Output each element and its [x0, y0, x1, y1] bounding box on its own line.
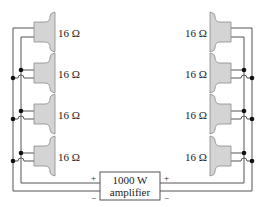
- speaker-label: 16 Ω: [185, 151, 207, 163]
- left-minus-terminal: −: [91, 193, 96, 203]
- speaker-label: 16 Ω: [58, 68, 80, 80]
- speaker-label: 16 Ω: [58, 109, 80, 121]
- speaker-label: 16 Ω: [185, 109, 207, 121]
- speaker-icon: 16 Ω: [185, 94, 231, 134]
- junction-dot: [11, 117, 16, 122]
- speaker-icon: 16 Ω: [185, 12, 231, 52]
- right-speakers: 16 Ω 16 Ω 16 Ω 16 Ω: [185, 12, 231, 176]
- speaker-icon: 16 Ω: [185, 136, 231, 176]
- junction-dot: [11, 76, 16, 81]
- right-wiring: [160, 28, 254, 191]
- junction-dot: [242, 151, 247, 156]
- amplifier-power-label: 1000 W: [113, 174, 149, 186]
- speaker-icon: 16 Ω: [185, 53, 231, 93]
- speaker-icon: 16 Ω: [34, 53, 80, 93]
- junction-dot: [250, 159, 255, 164]
- junction-dot: [19, 151, 24, 156]
- junction-dot: [242, 109, 247, 114]
- junction-dot: [250, 117, 255, 122]
- speaker-icon: 16 Ω: [34, 12, 80, 52]
- right-plus-terminal: +: [164, 173, 169, 183]
- speaker-label: 16 Ω: [185, 27, 207, 39]
- left-speakers: 16 Ω 16 Ω 16 Ω 16 Ω: [34, 12, 80, 176]
- speaker-label: 16 Ω: [58, 151, 80, 163]
- speaker-icon: 16 Ω: [34, 94, 80, 134]
- amplifier: 1000 W amplifier + − + −: [91, 172, 169, 203]
- speaker-icon: 16 Ω: [34, 136, 80, 176]
- left-plus-terminal: +: [91, 173, 96, 183]
- left-negative-wire: [13, 28, 100, 191]
- speaker-circuit-diagram: 16 Ω 16 Ω 16 Ω 16 Ω 16 Ω 16 Ω 16 Ω: [0, 0, 265, 207]
- junction-dot: [19, 68, 24, 73]
- junction-dot: [11, 159, 16, 164]
- right-minus-terminal: −: [164, 193, 169, 203]
- junction-dot: [242, 68, 247, 73]
- junction-dot: [19, 109, 24, 114]
- junction-dot: [250, 76, 255, 81]
- speaker-label: 16 Ω: [185, 68, 207, 80]
- amplifier-name-label: amplifier: [110, 186, 151, 198]
- speaker-label: 16 Ω: [58, 27, 80, 39]
